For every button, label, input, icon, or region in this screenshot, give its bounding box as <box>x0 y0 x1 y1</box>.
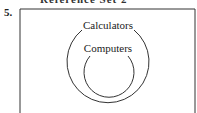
label-calculators: Calculators <box>83 19 133 31</box>
inner-circle-computers <box>84 56 134 97</box>
outer-circle-calculators <box>67 30 149 103</box>
venn-diagram: Calculators Computers <box>0 0 197 113</box>
label-computers: Computers <box>84 42 132 54</box>
